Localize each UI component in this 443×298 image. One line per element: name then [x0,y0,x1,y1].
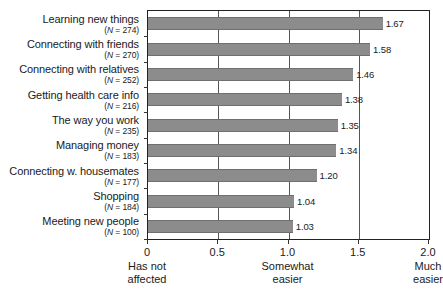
bar [148,195,294,208]
category-sample-size: (N = 216) [28,102,139,111]
y-axis-tick [144,138,148,139]
y-axis-tick [144,188,148,189]
bar [148,43,370,56]
x-axis-tick-label: 2.0 [420,246,435,258]
category-name: The way you work [52,115,139,126]
plot-inner: 1.671.581.461.381.351.341.201.041.03 [148,11,429,239]
bar [148,17,383,30]
y-axis-tick [144,112,148,113]
bar-value-label: 1.20 [320,170,338,181]
category-name: Managing money [56,140,139,151]
category-name: Connecting w. housemates [9,166,139,177]
y-axis-tick [144,214,148,215]
bar [148,169,317,182]
x-axis-tick-label: 0 [144,246,150,258]
category-sample-size: (N = 183) [56,152,139,161]
category-label: Connecting with friends(N = 270) [27,39,139,60]
x-axis-tick [428,239,429,244]
bar [148,93,342,106]
bar-value-label: 1.03 [296,221,314,232]
x-axis-tick-label: 1.5 [350,246,365,258]
bar-value-label: 1.58 [373,44,391,55]
bar [148,68,353,81]
x-axis-tick [288,239,289,244]
category-label: Meeting new people(N = 100) [42,216,139,237]
category-sample-size: (N = 235) [52,127,139,136]
y-axis-tick [144,36,148,37]
y-axis-tick [144,163,148,164]
plot-area: 1.671.581.461.381.351.341.201.041.03 [147,10,430,240]
category-label: Shopping(N = 184) [93,191,139,212]
bar-value-label: 1.04 [297,196,315,207]
category-name: Meeting new people [42,216,139,227]
x-axis-tick-label: 1.0 [280,246,295,258]
x-axis-anchor-label: Somewhateasier [262,260,314,285]
category-label: Getting health care info(N = 216) [28,90,139,111]
bar-value-label: 1.67 [386,18,404,29]
x-axis-anchor-label: Mucheasier [413,260,443,285]
bar [148,144,336,157]
category-sample-size: (N = 270) [27,51,139,60]
category-name: Learning new things [42,14,139,25]
category-name: Connecting with friends [27,39,139,50]
x-axis-tick [217,239,218,244]
category-axis-labels: Learning new things(N = 274)Connecting w… [0,0,143,298]
bar-value-label: 1.46 [356,69,374,80]
category-label: Connecting w. housemates(N = 177) [9,166,139,187]
category-sample-size: (N = 184) [93,203,139,212]
x-axis-anchor-label: Has notaffected [128,260,167,285]
x-axis-tick [358,239,359,244]
category-label: Connecting with relatives(N = 252) [19,64,139,85]
x-axis-tick-label: 0.5 [210,246,225,258]
category-sample-size: (N = 177) [9,178,139,187]
category-label: Managing money(N = 183) [56,140,139,161]
y-axis-tick [144,62,148,63]
category-name: Shopping [93,191,139,202]
bar-value-label: 1.34 [339,145,357,156]
category-sample-size: (N = 252) [19,76,139,85]
x-axis-tick [147,239,148,244]
bar [148,220,293,233]
category-sample-size: (N = 100) [42,228,139,237]
category-label: Learning new things(N = 274) [42,14,139,35]
category-name: Getting health care info [28,90,139,101]
category-sample-size: (N = 274) [42,26,139,35]
y-axis-tick [144,87,148,88]
bar-value-label: 1.35 [341,120,359,131]
category-label: The way you work(N = 235) [52,115,139,136]
bar-value-label: 1.38 [345,94,363,105]
bar [148,119,338,132]
category-name: Connecting with relatives [19,64,139,75]
